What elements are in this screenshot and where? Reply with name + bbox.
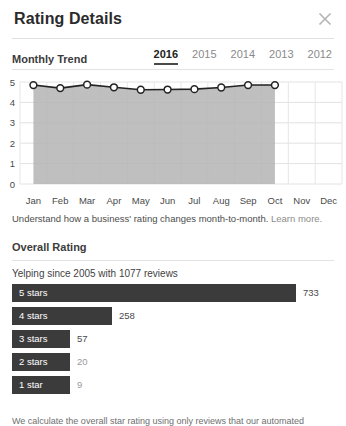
year-tabs: 2016 2015 2014 2013 2012 [154,48,334,65]
bar-count: 57 [77,330,88,348]
svg-text:0: 0 [10,179,15,190]
page-title: Rating Details [14,10,122,28]
footnote-text: We calculate the overall star rating usi… [12,416,334,426]
bar-row: 1 star9 [12,376,334,394]
trend-line-svg: 012345 [0,76,346,194]
x-tick-aug: Aug [213,195,230,206]
x-tick-apr: Apr [107,195,122,206]
tab-2013[interactable]: 2013 [269,48,293,65]
bar-4-stars[interactable]: 4 stars [12,307,112,325]
learn-more-link[interactable]: Learn more. [271,213,322,224]
rating-distribution-bars: 5 stars7334 stars2583 stars572 stars201 … [0,279,346,394]
tab-2012[interactable]: 2012 [308,48,332,65]
svg-text:1: 1 [10,158,15,169]
bar-2-stars[interactable]: 2 stars [12,353,70,371]
bar-1-star[interactable]: 1 star [12,376,70,394]
trend-caption: Understand how a business' rating change… [0,208,346,225]
x-tick-may: May [132,195,150,206]
modal-header: Rating Details [0,0,346,38]
tab-2014[interactable]: 2014 [231,48,255,65]
bar-label: 4 stars [12,307,48,325]
bar-count: 733 [303,284,319,302]
x-tick-nov: Nov [293,195,310,206]
trend-x-axis: JanFebMarAprMayJunJulAugSepOctNovDec [0,195,346,209]
x-tick-feb: Feb [52,195,68,206]
monthly-trend-label: Monthly Trend [12,53,87,65]
yelping-since-text: Yelping since 2005 with 1077 reviews [0,261,346,279]
trend-divider [12,69,334,70]
bar-row: 2 stars20 [12,353,334,371]
bar-label: 2 stars [12,353,48,371]
bar-count: 258 [119,307,135,325]
x-tick-jul: Jul [188,195,200,206]
svg-text:2: 2 [10,138,15,149]
svg-text:5: 5 [10,77,15,88]
bar-label: 3 stars [12,330,48,348]
tab-2015[interactable]: 2015 [192,48,216,65]
overall-rating-header: Overall Rating [0,225,346,255]
bar-row: 5 stars733 [12,284,334,302]
x-tick-oct: Oct [268,195,283,206]
bar-label: 1 star [12,376,43,394]
svg-text:4: 4 [10,97,15,108]
bar-label: 5 stars [12,284,48,302]
x-tick-mar: Mar [79,195,95,206]
rating-details-modal: Rating Details Monthly Trend 2016 2015 2… [0,0,346,426]
trend-caption-text: Understand how a business' rating change… [12,213,268,224]
bar-count: 20 [77,353,88,371]
x-tick-jun: Jun [160,195,175,206]
monthly-trend-chart: 012345 JanFebMarAprMayJunJulAugSepOctNov… [0,76,346,208]
monthly-trend-header: Monthly Trend 2016 2015 2014 2013 2012 [0,39,346,65]
bar-row: 3 stars57 [12,330,334,348]
tab-2016[interactable]: 2016 [154,48,178,65]
svg-text:3: 3 [10,117,15,128]
x-tick-dec: Dec [320,195,337,206]
overall-rating-label: Overall Rating [12,241,87,253]
bar-3-stars[interactable]: 3 stars [12,330,70,348]
bar-count: 9 [77,376,82,394]
close-icon[interactable] [316,10,334,28]
bar-row: 4 stars258 [12,307,334,325]
x-tick-jan: Jan [26,195,41,206]
x-tick-sep: Sep [240,195,257,206]
bar-5-stars[interactable]: 5 stars [12,284,296,302]
